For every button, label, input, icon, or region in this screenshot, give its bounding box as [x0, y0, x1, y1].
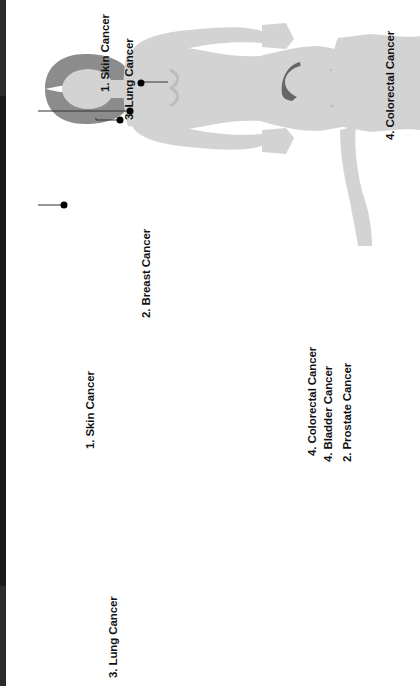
label-f-skin: 1. Skin Cancer — [99, 14, 112, 92]
male-clean-canvas — [0, 0, 420, 686]
label-m-prostate: 2. Prostate Cancer — [341, 363, 354, 462]
label-m-colorectal: 4. Colorectal Cancer — [306, 347, 319, 456]
label-m-bladder: 4. Bladder Cancer — [322, 366, 335, 462]
label-f-colorectal: 4. Colorectal Cancer — [384, 31, 397, 140]
label-f-breast: 2. Breast Cancer — [140, 229, 153, 318]
label-m-lung: 3. Lung Cancer — [107, 596, 120, 678]
cancer-location-infographic: 1. Skin Cancer 3. Lung Cancer 2. Breast … — [0, 0, 420, 686]
label-f-lung: 3. Lung Cancer — [123, 38, 136, 120]
label-m-skin: 1. Skin Cancer — [84, 371, 97, 449]
